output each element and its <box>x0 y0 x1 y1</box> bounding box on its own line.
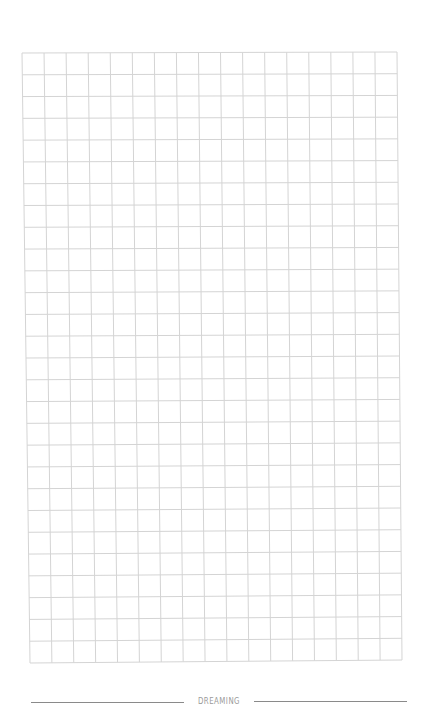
grid-horizontal-line <box>29 617 401 620</box>
page-footer: DREAMING <box>31 692 407 710</box>
grid-horizontal-line <box>26 378 399 380</box>
grid-horizontal-line <box>22 52 397 53</box>
grid-horizontal-line <box>27 443 400 445</box>
grid-horizontal-line <box>28 486 401 488</box>
grid-horizontal-line <box>24 204 398 206</box>
footer-label: DREAMING <box>192 696 247 706</box>
grid-horizontal-line <box>25 247 399 249</box>
grid-horizontal-line <box>24 226 398 228</box>
grid-horizontal-line <box>22 74 397 75</box>
grid-horizontal-line <box>30 638 402 641</box>
grid-horizontal-line <box>23 95 398 96</box>
grid-horizontal-line <box>27 399 400 401</box>
grid-horizontal-line <box>26 334 400 336</box>
grid-horizontal-line <box>29 595 401 598</box>
grid-horizontal-line <box>23 117 398 118</box>
grid-paper <box>0 0 423 716</box>
grid-horizontal-line <box>27 421 400 423</box>
grid-horizontal-line <box>27 465 400 467</box>
grid-horizontal-line <box>28 530 401 533</box>
grid-horizontal-line <box>28 508 401 511</box>
grid-horizontal-line <box>29 573 401 576</box>
grid-horizontal-line <box>25 291 399 293</box>
footer-rule-right <box>254 701 407 702</box>
grid-horizontal-line <box>29 551 402 554</box>
notebook-page: DREAMING <box>0 0 423 716</box>
footer-rule-left <box>31 702 184 703</box>
grid-horizontal-line <box>25 313 399 315</box>
grid-horizontal-line <box>23 139 398 140</box>
grid-horizontal-line <box>30 660 402 663</box>
grid-horizontal-line <box>24 182 398 183</box>
grid-horizontal-line <box>23 161 397 162</box>
grid-horizontal-line <box>26 356 400 358</box>
grid-horizontal-line <box>25 269 399 271</box>
